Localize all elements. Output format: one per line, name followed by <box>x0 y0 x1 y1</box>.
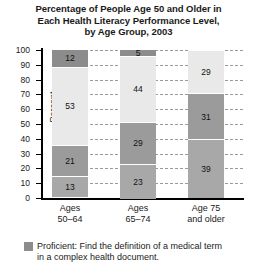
bar-segment-value-label: 23 <box>133 177 142 187</box>
y-axis-line <box>41 48 43 198</box>
y-axis-tick-label: 60 <box>0 104 30 114</box>
legend-label: Proficient: Find the definition of a med… <box>37 241 222 262</box>
plot-area: Percent 1009080706050403020100 125321135… <box>41 50 243 198</box>
y-axis-tick-mark <box>36 198 41 199</box>
bar-segment[interactable]: 5 <box>120 50 156 57</box>
bar-segment-value-label: 31 <box>201 112 210 122</box>
chart-title: Percentage of People Age 50 and Older in… <box>12 3 245 38</box>
bar-segment-value-label: 53 <box>65 101 74 111</box>
y-axis-tick-label: 70 <box>0 89 30 99</box>
bar-segment-value-label: 29 <box>201 67 210 77</box>
bar-segment[interactable]: 39 <box>188 140 224 198</box>
y-axis-tick-mark <box>36 50 41 51</box>
stacked-bar[interactable]: 5442923 <box>120 50 156 198</box>
y-axis-tick-label: 0 <box>0 193 30 203</box>
stacked-bar[interactable]: 293139 <box>188 50 224 198</box>
bar-segment-value-label: 29 <box>133 138 142 148</box>
y-axis-tick-mark <box>36 109 41 110</box>
y-axis-tick-mark <box>36 124 41 125</box>
x-axis-label-age-75-and-older: Age 75 and older <box>166 203 246 225</box>
y-axis-tick-mark <box>36 183 41 184</box>
x-axis-label-line: Age 75 <box>166 203 246 214</box>
bar-segment[interactable]: 13 <box>52 177 88 196</box>
bar-segment[interactable]: 44 <box>120 57 156 122</box>
y-axis-tick-mark <box>36 80 41 81</box>
y-axis-tick-label: 10 <box>0 178 30 188</box>
legend-label-line: Proficient: Find the definition of a med… <box>37 241 222 252</box>
bar-segment[interactable]: 29 <box>188 51 224 94</box>
x-axis-label-line: and older <box>166 214 246 225</box>
bar-segment[interactable]: 29 <box>120 123 156 166</box>
y-axis-tick-mark <box>36 65 41 66</box>
y-axis-tick-label: 50 <box>0 119 30 129</box>
bar-segment[interactable]: 53 <box>52 68 88 146</box>
stacked-bar[interactable]: 12532113 <box>52 50 88 198</box>
y-axis-tick-mark <box>36 139 41 140</box>
bar-segment-value-label: 21 <box>65 156 74 166</box>
legend-label-line: in a complex health document. <box>37 252 222 263</box>
y-axis-tick-label: 30 <box>0 149 30 159</box>
legend-swatch-icon <box>24 242 33 251</box>
bar-segment-value-label: 5 <box>136 50 141 57</box>
y-axis-tick-label: 40 <box>0 134 30 144</box>
legend-item[interactable]: Proficient: Find the definition of a med… <box>24 241 254 262</box>
bar-segment[interactable]: 23 <box>120 165 156 199</box>
bar-segment[interactable]: 12 <box>52 50 88 68</box>
y-axis-tick-mark <box>36 154 41 155</box>
y-axis-tick-label: 90 <box>0 60 30 70</box>
y-axis-tick-label: 100 <box>0 45 30 55</box>
bar-segment[interactable]: 21 <box>52 146 88 177</box>
y-axis-tick-mark <box>36 168 41 169</box>
bar-segment-value-label: 39 <box>201 164 210 174</box>
y-axis-tick-mark <box>36 94 41 95</box>
y-axis-tick-label: 80 <box>0 75 30 85</box>
chart-legend: Proficient: Find the definition of a med… <box>24 241 254 264</box>
chart-title-line-1: Percentage of People Age 50 and Older in <box>12 3 245 15</box>
bar-segment-value-label: 13 <box>65 182 74 192</box>
bar-segment-value-label: 12 <box>65 53 74 63</box>
bar-segment[interactable]: 31 <box>188 94 224 140</box>
chart-title-line-2: Each Health Literacy Performance Level, <box>12 15 245 27</box>
bar-segment-value-label: 44 <box>133 84 142 94</box>
y-axis-tick-label: 20 <box>0 163 30 173</box>
chart-title-line-3: by Age Group, 2003 <box>12 26 245 38</box>
